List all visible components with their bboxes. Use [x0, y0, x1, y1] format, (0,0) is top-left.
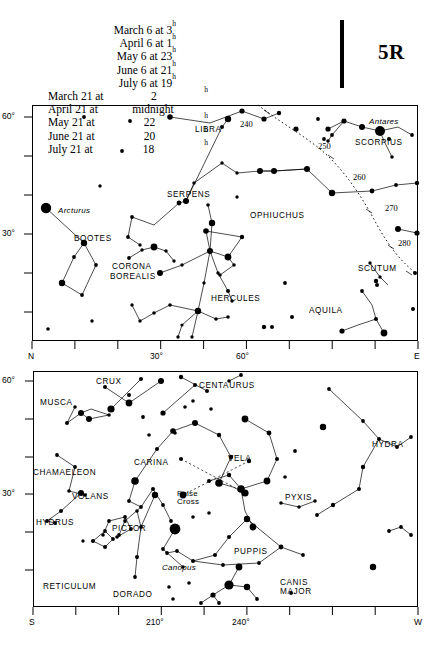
x-tick-label: 210°	[146, 617, 164, 627]
x-tick-label: N	[28, 351, 34, 361]
x-tick-label: 30°	[150, 351, 163, 361]
constellation-label-canis-major-2: MAJOR	[280, 587, 312, 596]
ecliptic-longitude-label: 270	[385, 203, 398, 213]
constellation-label-chamaeleon: CHAMAELEON	[33, 468, 96, 477]
constellation-label-canis-major: CANIS	[280, 578, 308, 587]
constellation-label-scutum: SCUTUM	[358, 264, 397, 273]
time-unit: h	[172, 77, 176, 90]
page-header: March 6 at3h April 6 at1h May 6 at23h Ju…	[0, 0, 438, 100]
time-unit: h	[204, 90, 208, 103]
date-row: June 6 at21h	[48, 64, 176, 77]
star-label-canopus: Canopus	[162, 563, 196, 572]
date-column-left: March 6 at3h April 6 at1h May 6 at23h Ju…	[48, 24, 176, 90]
constellation-label-dorado: DORADO	[113, 590, 153, 599]
constellation-label-puppis: PUPPIS	[234, 547, 268, 556]
star-arcturus	[41, 203, 51, 213]
time-text: 23	[161, 50, 173, 63]
constellation-label-musca: MUSCA	[40, 398, 73, 407]
ecliptic-line	[258, 105, 418, 275]
constellation-label-centaurus: CENTAURUS	[199, 381, 255, 390]
constellation-label-bootes: BOOTES	[74, 234, 112, 243]
constellation-label-corona-borealis-2: BOREALIS	[110, 272, 156, 281]
chart-starfield	[33, 371, 418, 607]
x-tick-label: W	[414, 617, 422, 627]
constellation-label-serpens: SERPENS	[167, 190, 210, 199]
date-row: March 21 at2h	[48, 90, 208, 103]
constellation-label-reticulum: RETICULUM	[43, 582, 96, 591]
constellation-label-aquila: AQUILA	[309, 306, 343, 315]
asterism-label-false-cross-2: Cross	[177, 497, 199, 506]
star-label-arcturus: Arcturus	[58, 206, 90, 215]
ecliptic-longitude-label: 240	[240, 119, 253, 129]
date-text: July 6 at	[119, 77, 161, 90]
axis-ticks	[24, 117, 418, 349]
constellation-label-scorpius: SCORPIUS	[355, 138, 403, 147]
date-text: March 6 at	[114, 24, 167, 37]
date-text: May 6 at	[117, 50, 161, 63]
time-text: 2	[151, 90, 157, 103]
constellation-label-hercules: HERCULES	[211, 294, 260, 303]
southern-sky-chart: 60° 30° S 210° 240° W	[33, 371, 418, 607]
constellation-label-hydrus: HYDRUS	[36, 518, 74, 527]
constellation-label-hydra: HYDRA	[372, 440, 404, 449]
x-tick-label: 240°	[232, 617, 250, 627]
date-row: May 6 at23h	[48, 50, 176, 63]
star-sirius	[224, 580, 233, 589]
y-tick-label: 30°	[2, 488, 15, 498]
constellation-label-libra: LIBRA	[195, 125, 222, 134]
date-text: April 6 at	[119, 37, 166, 50]
y-tick-label: 60°	[2, 375, 15, 385]
date-row: March 6 at3h	[48, 24, 176, 37]
date-row: July 6 at19h	[48, 77, 176, 90]
constellation-label-corona-borealis: CORONA	[112, 262, 152, 271]
date-text: March 21 at	[48, 90, 104, 103]
y-tick-label: 60°	[2, 111, 15, 121]
ecliptic-longitude-label: 260	[353, 172, 366, 182]
star-antares	[375, 126, 385, 136]
constellation-label-pyxis: PYXIS	[285, 493, 312, 502]
constellation-label-volans: VOLANS	[72, 492, 109, 501]
constellation-lines	[47, 375, 411, 603]
date-text: June 6 at	[117, 64, 161, 77]
ecliptic-longitude-label: 250	[318, 141, 331, 151]
constellation-label-pictor: PICTOR	[112, 524, 146, 533]
time-text: 19	[161, 77, 173, 90]
x-tick-label: S	[29, 617, 35, 627]
constellation-label-crux: CRUX	[96, 377, 122, 386]
header-divider-rule	[340, 20, 344, 88]
star-label-antares: Antares	[369, 117, 399, 126]
constellation-label-ophiuchus: OPHIUCHUS	[250, 211, 305, 220]
x-tick-label: E	[414, 351, 420, 361]
ecliptic-longitude-label: 280	[398, 238, 411, 248]
stars	[45, 373, 413, 605]
chart-identifier: 5R	[378, 40, 405, 65]
x-tick-label: 60°	[236, 351, 249, 361]
constellation-label-vela: VELA	[228, 454, 251, 463]
star-canopus	[170, 524, 181, 535]
y-tick-label: 30°	[2, 228, 15, 238]
time-text: 21	[161, 64, 173, 77]
constellation-label-carina: CARINA	[134, 458, 169, 467]
date-row: April 6 at1h	[48, 37, 176, 50]
